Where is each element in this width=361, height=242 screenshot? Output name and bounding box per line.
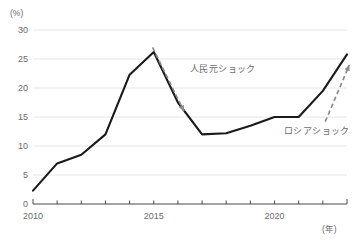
annotation-label-russia-shock: ロシアショック	[284, 124, 350, 137]
line-chart-plot	[0, 0, 361, 242]
annotation-arrow-shaft	[325, 65, 349, 122]
chart-container: (%) (年) 051015202530 201020152020 人民元ショッ…	[0, 0, 361, 242]
gridlines	[33, 30, 347, 175]
annotation-label-yuan-shock: 人民元ショック	[190, 62, 256, 75]
x-axis-ticks	[33, 199, 347, 204]
annotation-arrow-shaft	[153, 47, 184, 111]
